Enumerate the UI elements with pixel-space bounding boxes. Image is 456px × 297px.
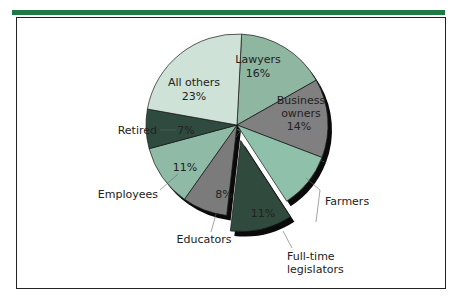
pie-chart: Lawyers 16% Business owners 14% All othe… (0, 0, 456, 297)
label-legislators-2: legislators (287, 263, 344, 276)
label-lawyers: Lawyers (235, 53, 281, 66)
label-all-others: All others (168, 76, 220, 89)
label-educators: Educators (177, 233, 232, 246)
pct-educators: 8% (215, 188, 232, 201)
pct-all-others: 23% (182, 90, 206, 103)
pct-business: 14% (287, 120, 311, 133)
label-legislators-1: Full-time (287, 250, 335, 263)
pct-legislators: 11% (251, 207, 275, 220)
label-business-1: Business (277, 94, 326, 107)
pct-employees: 11% (173, 161, 197, 174)
label-farmers: Farmers (325, 195, 369, 208)
label-employees: Employees (98, 188, 158, 201)
label-business-2: owners (281, 107, 321, 120)
label-retired: Retired (118, 124, 157, 137)
pct-lawyers: 16% (246, 67, 270, 80)
pct-retired: 7% (177, 124, 194, 137)
